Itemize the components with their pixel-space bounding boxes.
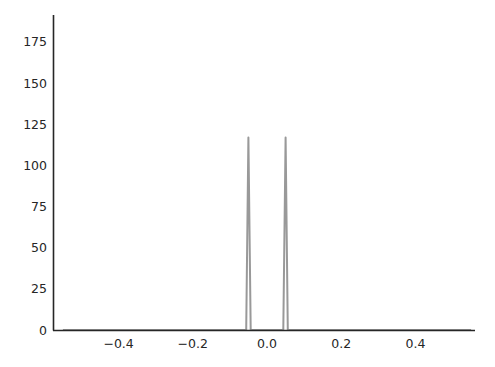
y-tick-label: 0 (39, 323, 47, 338)
y-tick-labels: 0255075100125150175 (23, 34, 47, 337)
y-tick-label: 100 (23, 158, 47, 173)
x-tick-label: −0.2 (178, 336, 208, 351)
y-tick-label: 50 (31, 240, 47, 255)
y-tick-label: 150 (23, 76, 47, 91)
y-tick-label: 25 (31, 281, 47, 296)
y-tick-label: 125 (23, 117, 47, 132)
x-tick-label: 0.0 (257, 336, 277, 351)
x-tick-label: −0.4 (103, 336, 133, 351)
density-line (63, 137, 471, 330)
plot-area (63, 137, 471, 330)
x-tick-labels: −0.4−0.20.00.20.4 (103, 336, 425, 351)
y-tick-label: 75 (31, 199, 47, 214)
density-chart: 0255075100125150175 −0.4−0.20.00.20.4 (0, 0, 495, 367)
y-tick-label: 175 (23, 34, 47, 49)
x-tick-label: 0.2 (331, 336, 351, 351)
x-tick-label: 0.4 (405, 336, 425, 351)
